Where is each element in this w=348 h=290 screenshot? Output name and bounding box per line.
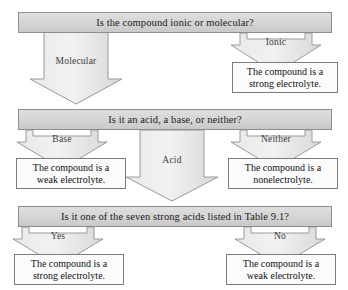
result-line-1: The compound is a [229, 162, 337, 174]
arrow-molecular [30, 32, 122, 104]
result-line-1: The compound is a [233, 66, 337, 78]
question-bar-seven-strong-acids: Is it one of the seven strong acids list… [18, 206, 332, 227]
result-line-1: The compound is a [17, 162, 125, 174]
question-bar-ionic-or-molecular: Is the compound ionic or molecular? [18, 12, 332, 33]
edge-label-base: Base [36, 134, 88, 144]
result-line-2: weak electrolyte. [227, 270, 335, 282]
result-box-no-weak-electrolyte: The compound is a weak electrolyte. [226, 254, 336, 285]
result-box-yes-strong-electrolyte: The compound is a strong electrolyte. [14, 254, 124, 285]
question-text-1: Is the compound ionic or molecular? [96, 17, 254, 28]
result-line-2: strong electrolyte. [233, 78, 337, 90]
electrolyte-classification-flowchart: Is the compound ionic or molecular? Mole… [0, 0, 348, 290]
arrow-acid [126, 130, 218, 201]
edge-label-neither: Neither [250, 134, 302, 144]
result-box-neither-nonelectrolyte: The compound is a nonelectrolyte. [228, 158, 338, 189]
result-line-2: strong electrolyte. [15, 270, 123, 282]
edge-label-acid: Acid [152, 155, 192, 165]
result-line-1: The compound is a [227, 258, 335, 270]
edge-label-molecular: Molecular [44, 56, 108, 66]
question-bar-acid-base-neither: Is it an acid, a base, or neither? [18, 109, 332, 130]
result-line-1: The compound is a [15, 258, 123, 270]
edge-label-no: No [254, 231, 306, 241]
edge-label-yes: Yes [32, 231, 84, 241]
question-text-3: Is it one of the seven strong acids list… [61, 211, 289, 222]
edge-label-ionic: Ionic [248, 37, 304, 47]
result-line-2: nonelectrolyte. [229, 174, 337, 186]
result-line-2: weak electrolyte. [17, 174, 125, 186]
result-box-ionic-strong-electrolyte: The compound is a strong electrolyte. [232, 62, 338, 93]
question-text-2: Is it an acid, a base, or neither? [108, 114, 242, 125]
result-box-base-weak-electrolyte: The compound is a weak electrolyte. [16, 158, 126, 189]
